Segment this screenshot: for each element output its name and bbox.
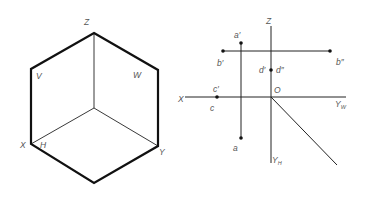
- axis-label-yw: YW: [335, 99, 347, 110]
- label-c: c: [210, 103, 215, 113]
- point-b-prime: [221, 49, 225, 53]
- orthographic-projection-diagram: Z X O YW YH a′ a b′ b″ c′ c d′ d″: [177, 16, 347, 166]
- point-d: [269, 68, 273, 72]
- label-w-plane: W: [133, 70, 142, 80]
- point-b-double-prime: [328, 49, 332, 53]
- axis-label-origin: O: [274, 85, 281, 95]
- axis-label-x: X: [177, 94, 184, 104]
- diagonal-45-line: [271, 97, 337, 165]
- label-v-plane: V: [36, 71, 43, 81]
- isometric-planes-diagram: Z V W X H Y: [19, 17, 166, 183]
- label-a: a: [233, 143, 238, 153]
- label-d-double-prime: d″: [276, 65, 285, 75]
- point-c-prime: [215, 95, 219, 99]
- label-b-prime: b′: [217, 58, 224, 68]
- projection-diagram-canvas: Z V W X H Y Z X O YW YH a′ a: [0, 0, 374, 206]
- inner-edge-x: [31, 108, 94, 144]
- label-x: X: [19, 140, 26, 150]
- point-a: [239, 136, 243, 140]
- point-a-prime: [239, 41, 243, 45]
- label-z: Z: [83, 17, 90, 27]
- label-y: Y: [159, 147, 166, 157]
- axis-label-z: Z: [265, 16, 272, 26]
- inner-edge-y: [94, 108, 158, 146]
- label-d-prime: d′: [259, 65, 266, 75]
- axis-label-yh: YH: [272, 155, 282, 166]
- label-h-plane: H: [40, 140, 47, 150]
- label-c-prime: c′: [213, 84, 219, 94]
- label-b-double-prime: b″: [336, 57, 345, 67]
- label-a-prime: a′: [234, 30, 241, 40]
